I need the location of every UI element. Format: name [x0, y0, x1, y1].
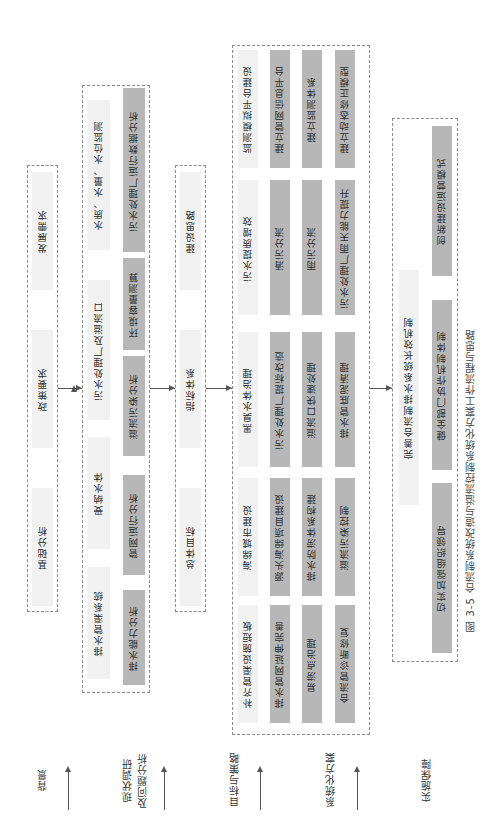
background-item-policy-requirements: 政策要求 — [32, 330, 53, 448]
stage-label-solution: 系统化方案 — [318, 748, 342, 810]
arrowhead-icon — [65, 766, 71, 772]
solution-item: 排水管网延伸完善 — [270, 605, 290, 723]
arrowhead-icon — [76, 385, 82, 391]
survey-analysis-environmental-capacity: 环境容量测算 — [123, 258, 145, 350]
implementation-item-coordination: 健全部门协作机制体制 — [432, 300, 452, 470]
survey-category-wwtp-outfalls: 污水处理厂及溢流口 — [88, 280, 110, 420]
solution-item: 排水防涝体系构建 — [302, 478, 322, 596]
solution-item: 建立动态修正模型 — [335, 50, 355, 168]
implementation-item-operation-model: 创新建设运营模式 — [432, 126, 452, 276]
stage-arrow — [260, 770, 261, 810]
arrowhead-icon — [169, 385, 175, 391]
survey-category-receiving-water: 受纳水体 — [88, 437, 110, 549]
arrowhead-icon — [386, 385, 392, 391]
solution-item: 建立管网信息平台 — [270, 50, 290, 168]
implementation-title: 完善合流制排水系统长效机制 — [399, 270, 419, 505]
solution-item: 污水处理厂雨天能力提升 — [335, 180, 355, 315]
solution-item: 雨污分流 — [302, 180, 322, 315]
solution-title-pipe-gaps: 补齐管渠设施短板 — [238, 605, 258, 723]
solution-item: 排水管底泥清理 — [335, 332, 355, 467]
solution-item: 溢流口快速处理 — [302, 332, 322, 467]
goals-item-construction-approach: 建设思路 — [180, 172, 201, 290]
stage-label-implementation: 实施保障 — [414, 750, 438, 810]
solution-item: 合流管诊断修复 — [335, 605, 355, 723]
survey-analysis-wwtp-data: 污水处理厂运行数据分析 — [123, 88, 145, 252]
solution-title-sewage-efficiency: 污水提质增效 — [238, 180, 258, 315]
background-item-basic-analysis: 基础分析 — [32, 488, 53, 606]
solution-title-monitoring-platform: 监测模拟平台建设 — [238, 50, 258, 168]
arrowhead-icon — [226, 385, 232, 391]
stage-arrow — [68, 770, 69, 810]
stage-label-survey: 现状调研 及问题分析 — [118, 745, 152, 815]
implementation-item-leadership: 切实加强组织领导 — [432, 483, 452, 653]
arrowhead-icon — [161, 766, 167, 772]
survey-analysis-network-operation: 管网运行分析 — [123, 475, 145, 575]
stage-arrow — [164, 770, 165, 810]
survey-category-monitoring: 水质、水量、水位监测 — [88, 100, 110, 250]
stage-arrow — [357, 770, 358, 810]
figure-caption: 图 3-5 合流制系统改造与溢流控制系统化方案工作流程与思路 — [463, 270, 478, 690]
goals-item-overall-target: 总体目标 — [180, 488, 201, 606]
survey-category-drainage-network: 排水管渠系统 — [88, 567, 110, 679]
solution-item: 清污分流 — [270, 180, 290, 315]
solution-title-sponge-city: 海绵城市建设 — [238, 478, 258, 596]
solution-item: 源头海绵项目建设 — [270, 478, 290, 596]
solution-item: 建立监测体系 — [302, 50, 322, 168]
arrowhead-icon — [354, 766, 360, 772]
arrowhead-icon — [257, 766, 263, 772]
solution-item: 溢流污染控制 — [335, 478, 355, 596]
survey-analysis-overflow-pollution: 溢流污染分析 — [123, 356, 145, 456]
goals-item-indicator-system: 指标体系 — [180, 330, 201, 448]
background-item-development-needs: 发展需求 — [32, 172, 53, 290]
survey-analysis-drainage-capacity: 排水能力分析 — [123, 590, 145, 685]
solution-item: 污水处理厂提标改造 — [270, 332, 290, 467]
stage-label-goals: 目标与策略 — [222, 748, 246, 810]
stage-label-background: 背景 — [30, 755, 54, 805]
solution-title-black-odorous-water: 黑臭水体治理 — [238, 332, 258, 467]
solution-item: 易涝点治理 — [302, 605, 322, 723]
